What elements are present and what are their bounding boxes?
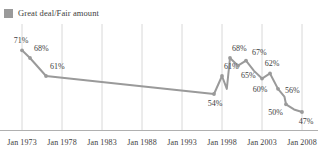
line-chart-svg: 71%68%61%54%61%68%65%67%62%60%56%50%47% bbox=[0, 24, 318, 136]
data-point-marker bbox=[44, 74, 48, 78]
data-point-label: 68% bbox=[34, 44, 49, 53]
data-point-marker bbox=[300, 110, 304, 114]
data-point-label: 62% bbox=[265, 59, 280, 68]
data-point-marker bbox=[236, 64, 240, 68]
x-tick-label: Jan 2003 bbox=[247, 138, 276, 147]
x-tick-label: Jan 1983 bbox=[87, 138, 116, 147]
x-tick-label: Jan 1988 bbox=[127, 138, 156, 147]
data-point-label: 65% bbox=[241, 71, 256, 80]
data-point-label: 50% bbox=[268, 108, 283, 117]
data-point-label: 54% bbox=[208, 99, 223, 108]
chart-container: Great deal/Fair amount 71%68%61%54%61%68… bbox=[0, 0, 318, 158]
x-tick-label: Jan 1993 bbox=[167, 138, 196, 147]
legend-label: Great deal/Fair amount bbox=[18, 8, 99, 18]
data-point-label: 68% bbox=[232, 44, 247, 53]
data-point-marker bbox=[28, 56, 32, 60]
data-point-marker bbox=[212, 92, 216, 96]
x-tick-label: Jan 1973 bbox=[7, 138, 36, 147]
data-point-marker bbox=[276, 87, 280, 91]
x-axis-tick-labels: Jan 1973Jan 1978Jan 1983Jan 1988Jan 1993… bbox=[0, 138, 318, 152]
data-line bbox=[22, 50, 302, 112]
data-point-marker bbox=[20, 48, 24, 52]
data-point-label: 60% bbox=[253, 85, 268, 94]
legend-swatch-icon bbox=[4, 9, 13, 18]
data-point-marker bbox=[244, 59, 248, 63]
data-point-label: 47% bbox=[299, 117, 314, 126]
plot-area: 71%68%61%54%61%68%65%67%62%60%56%50%47% bbox=[0, 24, 318, 136]
data-point-marker bbox=[260, 77, 264, 81]
x-tick-label: Jan 1978 bbox=[47, 138, 76, 147]
data-point-label: 71% bbox=[14, 36, 29, 45]
data-point-label: 56% bbox=[285, 86, 300, 95]
data-point-marker bbox=[268, 72, 272, 76]
data-point-marker bbox=[284, 102, 288, 106]
data-point-label: 61% bbox=[50, 62, 65, 71]
x-tick-label: Jan 2008 bbox=[287, 138, 316, 147]
x-tick-label: Jan 1998 bbox=[207, 138, 236, 147]
data-point-marker bbox=[228, 56, 232, 60]
chart-legend: Great deal/Fair amount bbox=[4, 7, 99, 19]
data-point-marker bbox=[220, 74, 224, 78]
data-point-label: 67% bbox=[252, 48, 267, 57]
